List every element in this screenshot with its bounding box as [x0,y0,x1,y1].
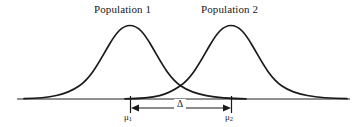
delta-symbol-label: Δ [174,99,186,110]
mu-2-subscript: 2 [230,115,233,122]
population-2-label: Population 2 [201,3,258,15]
delta-arrow-head-left [131,105,139,112]
mu-1-subscript: 1 [129,115,132,122]
population-1-label: Population 1 [94,3,151,15]
distribution-figure: Population 1 Population 2 Δ μ1 μ2 [0,0,363,127]
population-2-curve [125,26,347,99]
delta-arrow-head-right [223,105,231,112]
population-1-curve [24,26,246,99]
mu-2-label: μ2 [225,112,233,122]
mu-1-label: μ1 [124,112,132,122]
